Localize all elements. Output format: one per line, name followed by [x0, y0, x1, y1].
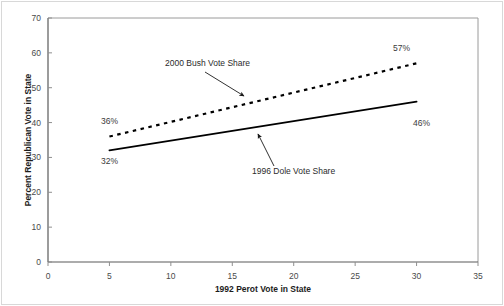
data-value-label: 46% [413, 118, 430, 128]
x-tick-label: 35 [473, 271, 483, 281]
data-value-label: 36% [101, 116, 118, 126]
annotation-label: 1996 Dole Vote Share [252, 166, 335, 176]
y-tick-label: 10 [32, 222, 42, 232]
x-tick-label: 0 [46, 271, 51, 281]
x-tick-label: 10 [166, 271, 176, 281]
plot-area-background [48, 18, 478, 262]
line-chart: 010203040506070 05101520253035 36%32%57%… [0, 0, 504, 306]
x-axis-title: 1992 Perot Vote in State [215, 284, 311, 294]
y-axis-title: Percent Republican Vote in State [23, 73, 33, 206]
y-tick-label: 60 [32, 48, 42, 58]
y-tick-label: 0 [36, 257, 41, 267]
data-value-label: 32% [101, 156, 118, 166]
x-tick-label: 15 [228, 271, 238, 281]
chart-container: 010203040506070 05101520253035 36%32%57%… [0, 0, 504, 306]
x-tick-label: 5 [107, 271, 112, 281]
data-value-label: 57% [393, 43, 410, 53]
annotation-label: 2000 Bush Vote Share [165, 58, 250, 68]
x-tick-label: 30 [412, 271, 422, 281]
y-tick-label: 70 [32, 13, 42, 23]
x-tick-label: 20 [289, 271, 299, 281]
x-tick-label: 25 [350, 271, 360, 281]
